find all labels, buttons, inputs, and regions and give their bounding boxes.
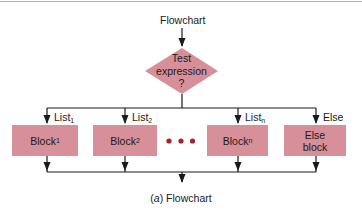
flowchart-connectors: [0, 0, 362, 215]
decision-line-3: ?: [145, 77, 218, 90]
decision-line-1: Test: [145, 52, 218, 65]
branch-label-else: Else: [323, 111, 343, 123]
block-1: Block1: [12, 125, 78, 156]
ellipsis-dot: [190, 138, 195, 143]
block-n: Blockn: [207, 125, 268, 156]
figure-caption: (a) Flowchart: [0, 192, 362, 204]
branch-label-list-n: Listn: [245, 111, 265, 123]
block-2: Block2: [93, 125, 157, 156]
branch-label-list-1: List1: [54, 111, 74, 123]
decision-line-2: expression: [145, 65, 218, 78]
ellipsis-dot: [166, 138, 171, 143]
else-block-line-2: block: [303, 141, 328, 153]
branch-label-list-2: List2: [132, 111, 152, 123]
else-block-line-1: Else: [305, 129, 325, 141]
ellipsis-dot: [178, 138, 183, 143]
else-block: Else block: [284, 125, 346, 156]
flowchart-title: Flowchart: [160, 14, 206, 26]
decision-label: Test expression ?: [145, 52, 218, 90]
